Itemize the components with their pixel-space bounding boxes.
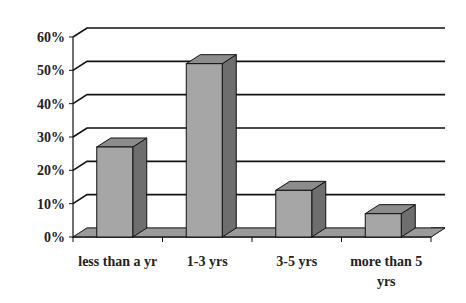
x-category-labels: less than a yr1-3 yrs3-5 yrsmore than 5y… bbox=[78, 254, 422, 289]
y-tick-label: 60% bbox=[37, 30, 65, 45]
gridline bbox=[73, 28, 445, 37]
x-category-label-line: 3-5 yrs bbox=[276, 254, 317, 269]
chart: 0%10%20%30%40%50%60% less than a yr1-3 y… bbox=[0, 0, 466, 303]
bar-side-face bbox=[312, 181, 326, 237]
y-tick-label: 40% bbox=[37, 97, 65, 112]
y-tick-label: 20% bbox=[37, 163, 65, 178]
gridline bbox=[73, 128, 445, 137]
bars bbox=[97, 55, 416, 237]
gridline bbox=[73, 95, 445, 104]
gridline bbox=[73, 61, 445, 70]
y-tick-labels: 0%10%20%30%40%50%60% bbox=[37, 30, 65, 245]
x-category-label-line: 1-3 yrs bbox=[187, 254, 228, 269]
y-tick-label: 50% bbox=[37, 63, 65, 78]
bar bbox=[186, 55, 236, 237]
y-tick-label: 10% bbox=[37, 197, 65, 212]
bar-front-face bbox=[186, 64, 222, 237]
bar-front-face bbox=[276, 190, 312, 237]
x-category-label-line: more than 5 bbox=[350, 254, 422, 269]
bar-side-face bbox=[133, 138, 147, 237]
y-tick-label: 30% bbox=[37, 130, 65, 145]
x-category-label: more than 5yrs bbox=[350, 254, 422, 289]
bar bbox=[97, 138, 147, 237]
x-category-label-line: less than a yr bbox=[78, 254, 157, 269]
bar bbox=[365, 205, 415, 237]
x-category-label: less than a yr bbox=[78, 254, 157, 269]
bar-front-face bbox=[365, 214, 401, 237]
y-tick-label: 0% bbox=[44, 230, 65, 245]
x-category-label: 3-5 yrs bbox=[276, 254, 317, 269]
bar bbox=[276, 181, 326, 237]
bar-front-face bbox=[97, 147, 133, 237]
bar-side-face bbox=[222, 55, 236, 237]
x-category-label: 1-3 yrs bbox=[187, 254, 228, 269]
x-category-label-line: yrs bbox=[377, 274, 396, 289]
